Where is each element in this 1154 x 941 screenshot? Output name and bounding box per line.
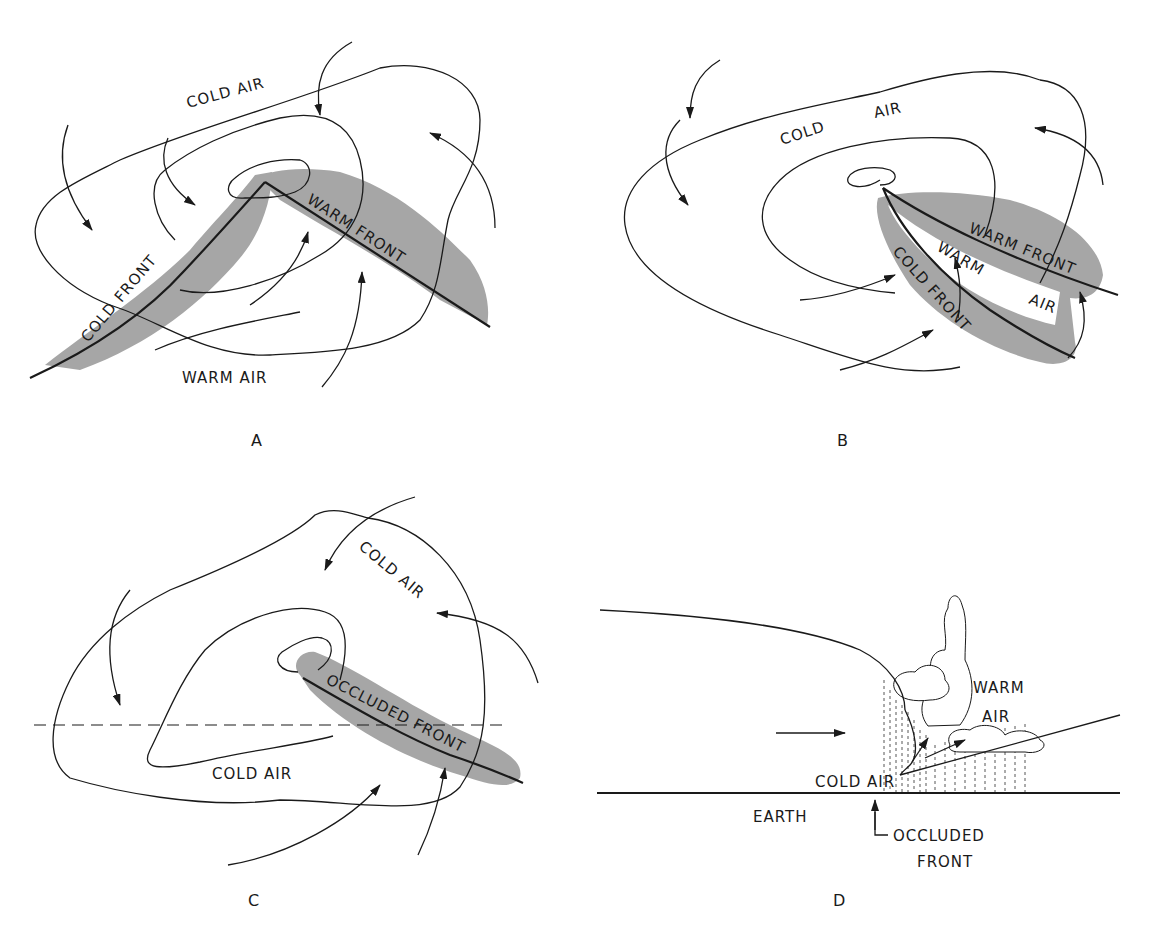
label-front: FRONT [917,853,973,871]
wind-arrow [666,120,688,205]
isobar-warm-sector [155,312,300,350]
wind-arrow [800,275,895,300]
label-cold-air-bottom: COLD AIR [212,765,292,783]
label-air-upper: AIR [982,708,1010,726]
cold-front-shading [45,172,272,370]
panel-label-c: C [248,891,259,910]
panel-b: COLD AIR WARM FRONT WARM AIR COLD FRONT … [624,60,1118,450]
wind-arrow [318,42,352,115]
wind-arrow [418,768,445,855]
cumulonimbus-cloud [894,596,1044,753]
isobar-outer [53,511,485,806]
panel-c: COLD AIR OCCLUDED FRONT COLD AIR C [34,497,538,910]
wind-arrow [840,330,933,370]
panel-label-d: D [833,891,845,910]
upper-frontal-surface [600,610,905,710]
label-air: AIR [872,98,903,121]
isobar-inner [848,168,896,187]
pointer-elbow [875,812,888,835]
wind-arrow [322,272,362,387]
panel-label-a: A [251,431,262,450]
label-warm-air: WARM AIR [182,369,268,387]
panel-a: COLD AIR COLD FRONT WARM FRONT WARM AIR … [30,42,495,450]
panel-label-b: B [837,431,848,450]
wind-arrow [250,232,308,305]
label-cold: COLD [778,117,827,148]
wind-arrow [164,138,195,205]
label-occluded: OCCLUDED [893,827,985,845]
wind-arrow [690,60,720,118]
label-cold-air-top: COLD AIR [355,537,428,602]
wind-arrow [228,785,380,865]
wind-arrow [430,133,495,228]
wind-arrow [62,125,92,230]
wind-arrow [1035,128,1103,185]
occluded-front-diagram: COLD AIR COLD FRONT WARM FRONT WARM AIR … [0,0,1154,941]
label-cold-air: COLD AIR [184,74,266,112]
label-cold-air: COLD AIR [815,773,895,791]
wind-arrow [437,613,538,683]
wind-arrow [110,590,130,705]
panel-d: WARM AIR COLD AIR EARTH OCCLUDED FRONT D [597,596,1120,910]
label-earth: EARTH [753,808,808,826]
label-warm: WARM [973,679,1025,697]
